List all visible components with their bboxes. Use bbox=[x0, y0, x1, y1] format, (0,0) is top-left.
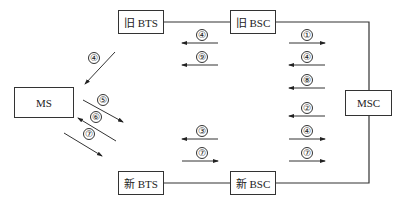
old-bts-node: 旧 BTS bbox=[118, 10, 164, 34]
old-bsc-node: 旧 BSC bbox=[230, 10, 276, 34]
step-badge: ⑦ bbox=[83, 128, 95, 140]
step-badge: ⑥ bbox=[90, 111, 102, 123]
old-bts-label: 旧 BTS bbox=[124, 14, 158, 30]
new-bts-label: 新 BTS bbox=[124, 175, 158, 191]
msc-node: MSC bbox=[345, 90, 392, 116]
step-badge: ⑦ bbox=[301, 147, 313, 159]
step-badge: ④ bbox=[301, 125, 313, 137]
step-badge: ⑦ bbox=[196, 147, 208, 159]
step-badge: ④ bbox=[196, 29, 208, 41]
step-badge: ⑧ bbox=[301, 74, 313, 86]
new-bsc-label: 新 BSC bbox=[236, 175, 271, 191]
step-badge: ⑤ bbox=[97, 94, 109, 106]
step-badge: ② bbox=[301, 102, 313, 114]
ms-node: MS bbox=[14, 87, 74, 118]
step-badge: ③ bbox=[196, 125, 208, 137]
step-badge: ④ bbox=[301, 51, 313, 63]
old-bsc-label: 旧 BSC bbox=[236, 14, 271, 30]
new-bsc-node: 新 BSC bbox=[230, 171, 276, 195]
ms-label: MS bbox=[36, 97, 52, 109]
step-badge: ① bbox=[301, 29, 313, 41]
new-bts-node: 新 BTS bbox=[118, 171, 164, 195]
step-badge: ⑨ bbox=[196, 51, 208, 63]
msc-label: MSC bbox=[357, 97, 380, 109]
step-badge: ④ bbox=[88, 52, 100, 64]
